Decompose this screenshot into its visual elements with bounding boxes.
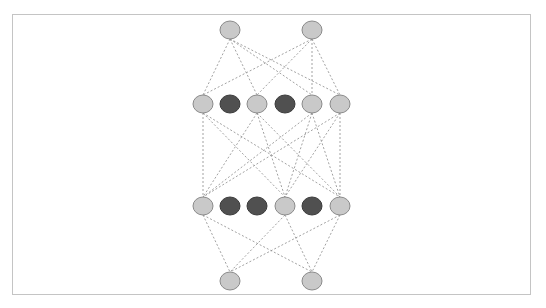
connection-edge: [312, 215, 340, 272]
hidden-layer-2-node-active: [275, 197, 295, 215]
connection-edge: [230, 39, 257, 95]
output-layer-node-active: [302, 272, 322, 290]
connection-edge: [285, 113, 312, 197]
hidden-layer-1-node-active: [330, 95, 350, 113]
connection-edge: [203, 215, 312, 272]
connection-edge: [203, 113, 285, 197]
neural-network-diagram: [0, 0, 546, 308]
connection-edge: [312, 39, 340, 95]
connection-edge: [230, 39, 340, 95]
connection-edge: [203, 113, 312, 197]
connection-edge: [203, 39, 230, 95]
hidden-layer-2-node-active: [193, 197, 213, 215]
connection-edge: [230, 39, 312, 95]
hidden-layer-1-node-dropped: [275, 95, 295, 113]
hidden-layer-2-node-dropped: [220, 197, 240, 215]
connection-edge: [203, 39, 312, 95]
connection-edge: [230, 215, 340, 272]
hidden-layer-2-node-dropped: [302, 197, 322, 215]
connection-edge: [203, 215, 230, 272]
connection-edge: [285, 113, 340, 197]
connection-edge: [203, 113, 257, 197]
input-layer-node-active: [220, 21, 240, 39]
hidden-layer-1-node-active: [193, 95, 213, 113]
hidden-layer-2-node-active: [330, 197, 350, 215]
hidden-layer-1-node-dropped: [220, 95, 240, 113]
connections: [203, 39, 340, 272]
hidden-layer-1-node-active: [302, 95, 322, 113]
hidden-layer-2-node-dropped: [247, 197, 267, 215]
connection-edge: [285, 215, 312, 272]
connection-edge: [312, 113, 340, 197]
input-layer-node-active: [302, 21, 322, 39]
hidden-layer-1-node-active: [247, 95, 267, 113]
output-layer-node-active: [220, 272, 240, 290]
